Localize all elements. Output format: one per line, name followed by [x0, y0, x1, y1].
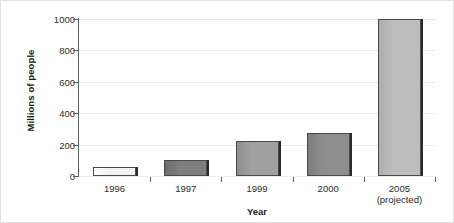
y-axis-tick-mark	[73, 176, 79, 177]
y-axis-tick-label: 0	[41, 171, 75, 182]
x-axis-tick-label-sub: (projected)	[364, 194, 435, 205]
x-axis-tick-label-1996: 1996	[79, 183, 150, 194]
y-axis-tick-mark	[73, 113, 79, 114]
y-axis-title-label: Millions of people	[25, 49, 36, 131]
bar-slot	[378, 19, 421, 176]
bar-slot	[236, 19, 279, 176]
gridline	[79, 176, 435, 177]
x-axis-tick-label-main: 1997	[175, 183, 196, 194]
y-axis-tick-mark	[73, 50, 79, 51]
x-axis-tick-label-2000: 2000	[293, 183, 364, 194]
x-axis-separator-tick	[435, 177, 436, 182]
x-axis-tick-label-main: 1996	[104, 183, 125, 194]
bar-slot	[307, 19, 350, 176]
bar-chart-figure: Millions of people 02004006008001000 199…	[0, 0, 454, 223]
x-axis-title: Year	[79, 206, 435, 217]
x-axis-tick-label-main: 2005	[389, 183, 410, 194]
y-axis-tick-mark	[73, 19, 79, 20]
y-axis-tick-label: 600	[41, 76, 75, 87]
x-axis-tick-label-main: 1999	[246, 183, 267, 194]
y-axis-tick-mark	[73, 82, 79, 83]
x-axis-tick-label-1999: 1999	[221, 183, 292, 194]
bar-1996[interactable]	[93, 167, 136, 176]
bar-2000[interactable]	[307, 133, 350, 176]
y-axis-tick-label: 200	[41, 139, 75, 150]
plot-area	[79, 19, 435, 176]
bar-1999[interactable]	[236, 141, 279, 176]
y-axis-tick-labels: 02004006008001000	[37, 1, 75, 223]
x-axis-tick-label-1997: 1997	[150, 183, 221, 194]
bar-slot	[164, 19, 207, 176]
y-axis-tick-label: 1000	[41, 14, 75, 25]
x-axis-separator-tick	[293, 177, 294, 182]
bar-2005[interactable]	[378, 19, 421, 176]
y-axis-tick-label: 400	[41, 108, 75, 119]
x-axis-separator-tick	[150, 177, 151, 182]
x-axis-separator-tick	[364, 177, 365, 182]
x-axis-tick-label-2005: 2005(projected)	[364, 183, 435, 205]
y-axis-tick-mark	[73, 145, 79, 146]
bar-1997[interactable]	[164, 160, 207, 176]
x-axis-tick-label-main: 2000	[318, 183, 339, 194]
bar-slot	[93, 19, 136, 176]
x-axis-separator-tick	[221, 177, 222, 182]
y-axis-tick-label: 800	[41, 45, 75, 56]
